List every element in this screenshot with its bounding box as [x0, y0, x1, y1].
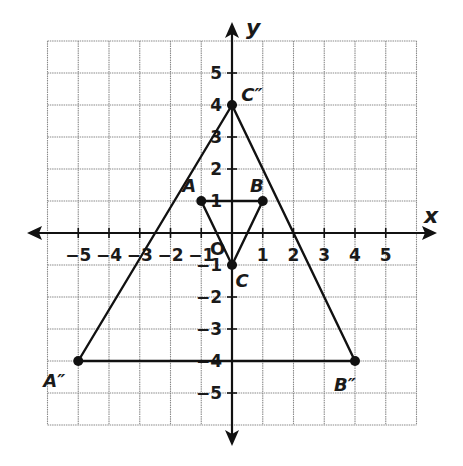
y-tick-label: −1	[196, 255, 222, 275]
x-tick-label: −4	[96, 245, 122, 265]
x-tick-label: 2	[288, 245, 300, 265]
vertex-point	[73, 356, 83, 366]
x-axis-label: x	[423, 203, 439, 228]
x-tick-label: −2	[157, 245, 183, 265]
coordinate-plane: x y O −5−4−3−2−11234554321−1−2−3−4−5 ABC…	[0, 0, 463, 466]
y-tick-label: 4	[210, 95, 222, 115]
x-tick-label: 5	[380, 245, 392, 265]
axes: x y O	[27, 15, 439, 446]
x-tick-label: 1	[257, 245, 269, 265]
vertex-point	[227, 260, 237, 270]
vertex-point	[350, 356, 360, 366]
vertex-label: B″	[334, 374, 356, 395]
x-tick-label: −3	[127, 245, 153, 265]
vertex-label: C	[235, 270, 249, 291]
triangles: ABCA″B″C″	[41, 84, 360, 395]
y-tick-label: 5	[210, 63, 222, 83]
vertex-point	[196, 196, 206, 206]
vertex-point	[227, 100, 237, 110]
vertex-label: A″	[41, 370, 65, 391]
y-tick-label: −3	[196, 319, 222, 339]
y-tick-label: −2	[196, 287, 222, 307]
x-tick-label: −5	[65, 245, 91, 265]
vertex-label: B	[250, 175, 264, 196]
x-tick-label: 4	[349, 245, 361, 265]
y-axis-label: y	[246, 15, 262, 40]
y-tick-label: −5	[196, 383, 222, 403]
vertex-label: C″	[241, 84, 262, 105]
y-tick-label: 2	[210, 159, 222, 179]
vertex-point	[258, 196, 268, 206]
x-tick-label: 3	[318, 245, 330, 265]
